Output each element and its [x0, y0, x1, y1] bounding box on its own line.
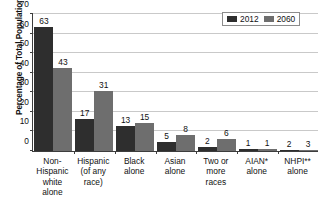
legend-entry-2012[interactable]: 2012 [227, 14, 259, 24]
x-tick-mark [237, 151, 238, 154]
bar-2012-6: 2 [280, 150, 299, 151]
x-label-line: Hispanic [73, 156, 114, 166]
bar-2012-0: 63 [34, 27, 53, 151]
y-tick-label: 50 [20, 38, 29, 48]
bar-2012-5: 1 [239, 149, 258, 151]
x-label-line: alone [114, 166, 155, 176]
x-label-line: Hispanic [32, 166, 73, 176]
bar-group: 6343 [33, 14, 74, 151]
y-tick-label: 10 [20, 116, 29, 126]
bar-value-label: 15 [140, 112, 149, 122]
bar-2012-4: 2 [198, 147, 217, 151]
legend-swatch-icon [227, 16, 237, 22]
x-label-5: AIAN*alone [236, 156, 277, 177]
bar-value-label: 1 [265, 138, 270, 148]
bar-2060-2: 15 [135, 123, 154, 151]
bar-2012-3: 5 [157, 142, 176, 151]
x-label-line: alone [236, 166, 277, 176]
bar-group: 1315 [115, 14, 156, 151]
x-label-0: Non-Hispanicwhitealone [32, 156, 73, 198]
x-tick-mark [196, 151, 197, 154]
x-label-line: NHPI** [277, 156, 318, 166]
bar-value-label: 17 [80, 108, 89, 118]
bar-value-label: 3 [306, 139, 311, 149]
x-label-line: Two or [195, 156, 236, 166]
x-label-line: more [195, 166, 236, 176]
bar-2060-1: 31 [94, 91, 113, 151]
x-label-line: white [32, 177, 73, 187]
bar-chart: Percentage of Total Population 010203040… [0, 0, 327, 212]
bar-group: 1731 [74, 14, 115, 151]
x-label-line: Asian [155, 156, 196, 166]
bar-group: 23 [278, 14, 319, 151]
x-label-line: races [195, 177, 236, 187]
bar-2012-1: 17 [75, 119, 94, 151]
x-label-line: Black [114, 156, 155, 166]
y-tick-label: 0 [24, 136, 29, 146]
x-label-line: alone [32, 187, 73, 197]
bar-value-label: 43 [58, 57, 67, 67]
bar-2060-3: 8 [176, 135, 195, 151]
y-tick-label: 60 [20, 19, 29, 29]
x-label-line: alone [277, 166, 318, 176]
bar-2060-0: 43 [53, 68, 72, 151]
y-tick-label: 20 [20, 97, 29, 107]
legend-label: 2012 [240, 14, 259, 24]
bar-2060-6: 3 [299, 150, 318, 151]
x-tick-mark [156, 151, 157, 154]
bar-2060-4: 6 [217, 139, 236, 151]
bar-value-label: 6 [224, 128, 229, 138]
x-tick-mark [74, 151, 75, 154]
x-label-3: Asianalone [155, 156, 196, 177]
plot-area: 010203040506070 63431731131558261123 [32, 14, 318, 152]
bar-value-label: 1 [246, 138, 251, 148]
x-axis-labels: Non-HispanicwhitealoneHispanic(of anyrac… [32, 156, 318, 208]
y-tick-label: 30 [20, 77, 29, 87]
x-label-2: Blackalone [114, 156, 155, 177]
x-label-line: alone [155, 166, 196, 176]
bar-value-label: 31 [99, 80, 108, 90]
bar-2012-2: 13 [116, 126, 135, 151]
x-label-4: Two ormoreraces [195, 156, 236, 187]
bar-value-label: 5 [164, 131, 169, 141]
x-tick-mark [278, 151, 279, 154]
x-label-line: (of any [73, 166, 114, 176]
legend: 20122060 [222, 12, 300, 26]
x-label-line: race) [73, 177, 114, 187]
bar-group: 58 [156, 14, 197, 151]
y-tick-label: 40 [20, 58, 29, 68]
bar-group: 26 [196, 14, 237, 151]
y-tick-label: 70 [20, 0, 29, 9]
x-label-1: Hispanic(of anyrace) [73, 156, 114, 187]
x-label-6: NHPI**alone [277, 156, 318, 177]
bar-value-label: 13 [121, 115, 130, 125]
x-tick-mark [115, 151, 116, 154]
legend-entry-2060[interactable]: 2060 [264, 14, 296, 24]
bar-value-label: 2 [287, 139, 292, 149]
legend-swatch-icon [264, 16, 274, 22]
bar-value-label: 2 [205, 136, 210, 146]
bar-2060-5: 1 [258, 149, 277, 151]
bar-value-label: 63 [39, 16, 48, 26]
x-label-line: AIAN* [236, 156, 277, 166]
bars-layer: 63431731131558261123 [33, 14, 318, 151]
bar-value-label: 8 [183, 124, 188, 134]
bar-group: 11 [237, 14, 278, 151]
legend-label: 2060 [277, 14, 296, 24]
x-label-line: Non- [32, 156, 73, 166]
